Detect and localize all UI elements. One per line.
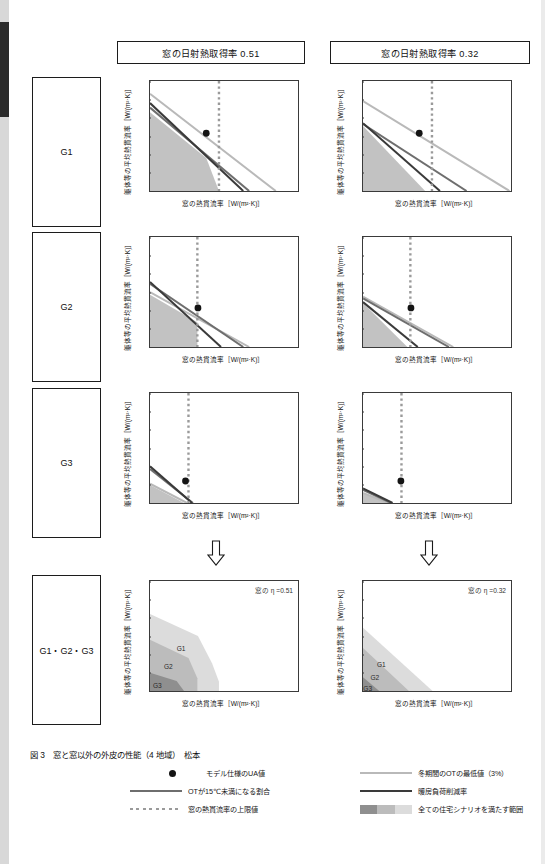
down-arrow-icon-left bbox=[207, 540, 225, 566]
eta-annotation: 窓の η =0.32 bbox=[468, 585, 506, 595]
x-axis-label: 窓の熱貫流率［W/(m²·K)］ bbox=[362, 510, 510, 520]
legend-label: 全ての住宅シナリオを満たす範囲 bbox=[418, 804, 523, 814]
x-axis-label: 窓の熱貫流率［W/(m²·K)］ bbox=[149, 354, 297, 364]
plot-area: 00.10.20.30.40.50.6012345 bbox=[149, 392, 299, 504]
x-axis-label: 窓の熱貫流率［W/(m²·K)］ bbox=[362, 354, 510, 364]
plot-area: 00.10.20.30.40.50.6012345 bbox=[149, 80, 299, 192]
column-header-right: 窓の日射熱取得率 0.32 bbox=[330, 41, 530, 64]
page-edge-marker bbox=[0, 22, 9, 117]
model-ua-marker bbox=[397, 478, 404, 485]
band-label-G1: G1 bbox=[177, 644, 186, 651]
x-axis-label: 窓の熱貫流率［W/(m²·K)］ bbox=[362, 698, 510, 708]
y-axis-label: 躯体等の平均熱貫流率［W/(m²·K)］ bbox=[335, 392, 345, 512]
legend-key-line bbox=[360, 786, 412, 796]
band-label-G2: G2 bbox=[164, 663, 173, 670]
model-ua-marker bbox=[416, 130, 423, 137]
legend-item: OTが15℃未満になる割合 bbox=[130, 786, 270, 796]
feasible-region bbox=[150, 485, 184, 503]
page-edge-right bbox=[541, 0, 545, 864]
y-axis-label: 躯体等の平均熱貫流率［W/(m²·K)］ bbox=[122, 80, 132, 200]
y-axis-label: 躯体等の平均熱貫流率［W/(m²·K)］ bbox=[122, 236, 132, 356]
plot-area: 00.10.20.30.40.50.6012345 bbox=[362, 392, 512, 504]
feasible-region bbox=[150, 112, 219, 191]
legend-key-line bbox=[130, 786, 182, 796]
legend-item: 窓の熱貫流率の上限値 bbox=[130, 804, 258, 814]
x-axis-label: 窓の熱貫流率［W/(m²·K)］ bbox=[149, 698, 297, 708]
model-ua-marker bbox=[408, 305, 415, 312]
legend-key-line bbox=[360, 768, 412, 778]
plot-area: 00.10.20.30.40.50.6012345 bbox=[362, 236, 512, 348]
model-ua-marker bbox=[182, 478, 189, 485]
x-axis-label: 窓の熱貫流率［W/(m²·K)］ bbox=[149, 510, 297, 520]
legend-marker-icon bbox=[169, 770, 176, 777]
figure-page: 窓の日射熱取得率 0.51 窓の日射熱取得率 0.32 G1 G2 G3 G1・… bbox=[0, 0, 545, 864]
legend-label: 暖房負荷削減率 bbox=[418, 786, 467, 796]
plot-area: 00.10.20.30.40.50.6012345 bbox=[149, 236, 299, 348]
row-label-g3: G3 bbox=[32, 388, 101, 538]
band-label-G3: G3 bbox=[363, 684, 372, 691]
plot-area: G1G2G3窓の η =0.5100.10.20.30.40.50.601234… bbox=[149, 580, 299, 692]
y-axis-label: 躯体等の平均熱貫流率［W/(m²·K)］ bbox=[335, 80, 345, 200]
legend-line-icon bbox=[130, 790, 182, 792]
legend-item: モデル仕様のUA値 bbox=[148, 768, 265, 778]
row-label-combined: G1・G2・G3 bbox=[32, 575, 101, 725]
legend-key-dotted bbox=[130, 804, 182, 814]
y-axis-label: 躯体等の平均熱貫流率［W/(m²·K)］ bbox=[122, 392, 132, 512]
legend-label: OTが15℃未満になる割合 bbox=[188, 786, 270, 796]
chart-g1-right: 躯体等の平均熱貫流率［W/(m²·K)］00.10.20.30.40.50.60… bbox=[318, 72, 526, 222]
chart-g2-right: 躯体等の平均熱貫流率［W/(m²·K)］00.10.20.30.40.50.60… bbox=[318, 228, 526, 378]
legend-label: モデル仕様のUA値 bbox=[206, 768, 265, 778]
legend-item: 全ての住宅シナリオを満たす範囲 bbox=[360, 804, 523, 814]
x-axis-label: 窓の熱貫流率［W/(m²·K)］ bbox=[362, 198, 510, 208]
y-axis-label: 躯体等の平均熱貫流率［W/(m²·K)］ bbox=[335, 236, 345, 356]
chart-g2-left: 躯体等の平均熱貫流率［W/(m²·K)］00.10.20.30.40.50.60… bbox=[105, 228, 313, 378]
chart-g1-left: 躯体等の平均熱貫流率［W/(m²·K)］00.10.20.30.40.50.60… bbox=[105, 72, 313, 222]
legend-line-icon bbox=[360, 790, 412, 792]
legend-label: 窓の熱貫流率の上限値 bbox=[188, 804, 258, 814]
down-arrow-icon-right bbox=[420, 540, 438, 566]
chart-combined-right: 躯体等の平均熱貫流率［W/(m²·K)］G1G2G3窓の η =0.3200.1… bbox=[318, 572, 526, 722]
chart-combined-left: 躯体等の平均熱貫流率［W/(m²·K)］G1G2G3窓の η =0.5100.1… bbox=[105, 572, 313, 722]
legend-line-icon bbox=[360, 772, 412, 774]
row-label-g2: G2 bbox=[32, 232, 101, 382]
figure-caption: 図 3 窓と窓以外の外皮の性能（4 地域） 松本 bbox=[30, 748, 200, 760]
eta-annotation: 窓の η =0.51 bbox=[255, 585, 293, 595]
legend-item: 冬期間のOTの最低値（3%） bbox=[360, 768, 508, 778]
column-header-left: 窓の日射熱取得率 0.51 bbox=[117, 41, 305, 64]
plot-area: G1G2G3窓の η =0.3200.10.20.30.40.50.601234… bbox=[362, 580, 512, 692]
row-label-g1: G1 bbox=[32, 77, 101, 227]
plot-area: 00.10.20.30.40.50.6012345 bbox=[362, 80, 512, 192]
band-label-G3: G3 bbox=[153, 681, 162, 688]
page-edge-left bbox=[0, 0, 9, 864]
legend-dotted-line-icon bbox=[130, 808, 182, 810]
x-axis-label: 窓の熱貫流率［W/(m²·K)］ bbox=[149, 198, 297, 208]
model-ua-marker bbox=[203, 130, 210, 137]
legend-key-swatch bbox=[360, 804, 412, 814]
band-label-G1: G1 bbox=[377, 661, 386, 668]
y-axis-label: 躯体等の平均熱貫流率［W/(m²·K)］ bbox=[335, 580, 345, 700]
model-ua-marker bbox=[195, 305, 202, 312]
legend-label: 冬期間のOTの最低値（3%） bbox=[418, 768, 508, 778]
legend-item: 暖房負荷削減率 bbox=[360, 786, 467, 796]
chart-g3-left: 躯体等の平均熱貫流率［W/(m²·K)］00.10.20.30.40.50.60… bbox=[105, 384, 313, 534]
legend-band-swatch-icon bbox=[360, 805, 412, 814]
y-axis-label: 躯体等の平均熱貫流率［W/(m²·K)］ bbox=[122, 580, 132, 700]
legend-key-marker bbox=[148, 768, 200, 778]
band-label-G2: G2 bbox=[370, 674, 379, 681]
chart-g3-right: 躯体等の平均熱貫流率［W/(m²·K)］00.10.20.30.40.50.60… bbox=[318, 384, 526, 534]
figure-legend: モデル仕様のUA値OTが15℃未満になる割合窓の熱貫流率の上限値冬期間のOTの最… bbox=[0, 766, 545, 826]
